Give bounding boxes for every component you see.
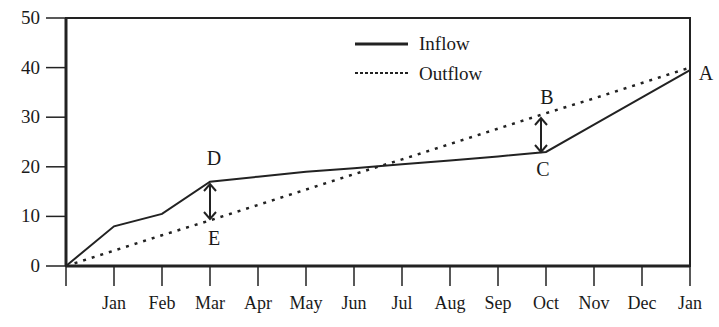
annotation-e: E (208, 227, 220, 249)
legend: Inflow Outflow (355, 33, 483, 84)
annotation-a: A (699, 62, 714, 84)
double-arrow-b-c (535, 118, 547, 152)
y-tick-label: 30 (21, 106, 40, 127)
y-tick-label: 40 (21, 57, 40, 78)
legend-inflow-label: Inflow (419, 33, 470, 54)
y-tick-label: 20 (21, 156, 40, 177)
annotation-d: D (207, 147, 221, 169)
inflow-series-line (66, 70, 690, 266)
cash-flow-chart: 0 10 20 30 40 50 Jan Feb Mar Apr May Jun… (0, 0, 719, 327)
double-arrow-d-e (204, 184, 216, 219)
y-tick-label: 10 (21, 205, 40, 226)
y-tick-label: 0 (31, 255, 41, 276)
x-tick-label: Mar (195, 293, 225, 313)
plot-frame (66, 18, 690, 266)
x-tick-label: Jun (341, 293, 366, 313)
x-tick-label: Oct (533, 293, 559, 313)
x-tick-label: Aug (435, 293, 466, 313)
x-tick-label: Sep (485, 293, 512, 313)
x-tick-label: Jul (391, 293, 412, 313)
x-tick-label: Jan (102, 293, 126, 313)
x-tick-label: Dec (628, 293, 657, 313)
x-tick-label: Feb (149, 293, 176, 313)
x-tick-label: Apr (244, 293, 272, 313)
x-axis-labels: Jan Feb Mar Apr May Jun Jul Aug Sep Oct … (102, 293, 702, 313)
y-axis-labels: 0 10 20 30 40 50 (21, 7, 40, 276)
x-axis-ticks (66, 266, 690, 286)
x-tick-label: Jan (678, 293, 702, 313)
legend-outflow-label: Outflow (419, 63, 483, 84)
x-tick-label: May (290, 293, 323, 313)
y-axis-ticks (46, 18, 66, 266)
annotation-c: C (536, 158, 549, 180)
y-tick-label: 50 (21, 7, 40, 28)
annotation-b: B (540, 86, 553, 108)
x-tick-label: Nov (579, 293, 610, 313)
